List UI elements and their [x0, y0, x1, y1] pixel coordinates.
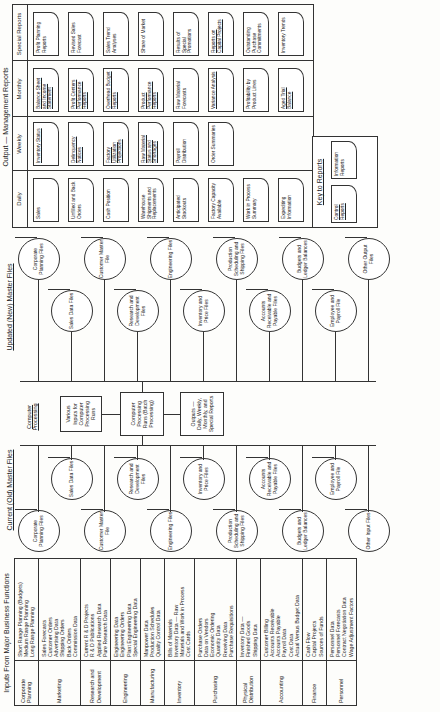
input-row: PurchasingPurchase OrdersData on Vendors… — [194, 559, 236, 705]
input-row: AccountingCustomer BillingAccounts Recei… — [260, 559, 302, 705]
report-label: Inventory Trends — [281, 17, 286, 53]
file-circle: Employee and Payroll File — [315, 458, 357, 500]
outputs-title: Output — Management Reports — [2, 6, 9, 228]
report-label: Cash Position — [106, 189, 111, 219]
input-data-item: Sources of Funds — [318, 562, 324, 657]
input-data-item: Quality Control Data — [155, 562, 161, 657]
input-data-item: Cost Cards — [185, 562, 191, 657]
input-row: Physical DistributionInventory Data —Fin… — [236, 559, 260, 705]
file-connector — [170, 280, 171, 382]
file-circle: Corporate Planning Files — [18, 510, 60, 552]
key-title: Key to Reports — [316, 137, 323, 227]
input-data-item: Wage Adjustment Factors — [348, 562, 354, 657]
file-connector — [104, 280, 105, 382]
input-function: Accounting — [261, 660, 302, 705]
input-row: FinanceCash FlowCapital ProjectsSources … — [302, 559, 326, 705]
input-function: Corporate Planning — [15, 660, 38, 705]
connector — [102, 414, 120, 415]
input-row: ManufacturingManpower DataProduction Sch… — [140, 559, 164, 705]
input-function: Personnel — [327, 660, 356, 705]
report-label: Share of Market — [141, 19, 146, 53]
information-report: Profit Planning Reports — [33, 12, 59, 56]
report-label: Raw Material Forecasts — [176, 81, 187, 109]
key-control-label: Control Reports — [334, 203, 345, 220]
inputs-title: Inputs From Major Business Functions — [3, 560, 10, 706]
file-connector — [38, 446, 39, 512]
information-report: Warehouse Shipments and Replacements — [138, 178, 164, 222]
report-label: Outstanding Purchase Commitments — [246, 23, 262, 53]
file-connector — [269, 446, 270, 460]
header-divider — [27, 5, 28, 227]
outputs-box: Outputs — Daily, Weekly, Monthly, and Sp… — [180, 392, 224, 436]
report-label: Anticipated Stockouts — [176, 195, 187, 219]
connector — [142, 382, 143, 392]
current-files-bus — [20, 445, 376, 446]
file-connector — [137, 332, 138, 382]
input-function: Purchasing — [195, 660, 236, 705]
report-label: Work in Process Summary — [246, 184, 257, 219]
input-data-list: Personnel DataPersonnel ForecastsContrac… — [327, 559, 356, 660]
file-circle: Engineering Files — [150, 238, 192, 280]
information-report: Results of Special Promotions — [173, 12, 199, 56]
file-connector — [236, 446, 237, 512]
report-label: Sales — [36, 207, 41, 219]
input-row: InventoryBills of MaterialsInventory Dat… — [164, 559, 194, 705]
file-connector — [335, 332, 336, 382]
input-data-item: Actual Versus Budget Data — [294, 562, 300, 657]
updated-files-title: Updated (New) Master Files — [6, 232, 13, 382]
input-function: Finance — [303, 660, 326, 705]
report-label: Payroll Distribution — [176, 139, 187, 163]
input-function: Engineering — [111, 660, 140, 705]
information-report: Unfilled and Back Orders — [68, 178, 94, 222]
report-label: Profit Centers Performance Reports — [71, 80, 87, 109]
input-data-item: Shipping Data — [252, 562, 258, 657]
input-data-list: Sales ForecastsCustomer OrdersAdvertisin… — [39, 559, 80, 660]
column-divider — [13, 170, 313, 171]
current-files-title: Current (Old) Master Files — [6, 420, 13, 560]
report-label: Aged Trial Balance — [281, 87, 292, 109]
report-label: Revised Sales Forecast — [71, 22, 82, 53]
report-column-label: Daily — [16, 171, 22, 227]
file-circle: Accounts Receivable and Payable Files — [249, 458, 291, 500]
input-data-list: Bills of MaterialsInventory Data — RawMa… — [165, 559, 194, 660]
input-data-item: Special Engineering Data — [132, 562, 138, 657]
file-connector — [137, 446, 138, 460]
information-report: Anticipated Stockouts — [173, 178, 199, 222]
report-column-label: Monthly — [16, 61, 22, 117]
file-circle: Budgets and Ledger Balances — [282, 510, 324, 552]
file-connector — [203, 446, 204, 460]
control-report: Variance Analysis — [208, 68, 234, 112]
file-circle: Production Scheduling and Shipping Files — [216, 238, 258, 280]
report-label: Delinquency Notices — [71, 137, 82, 163]
file-connector — [203, 332, 204, 382]
file-circle: Engineering Files — [150, 510, 192, 552]
input-data-list: Current R & D ProjectsR & D Publications… — [81, 559, 110, 660]
file-circle: Employee and Payroll File — [315, 290, 357, 332]
file-connector — [236, 280, 237, 382]
processing-title: Computer Processing — [26, 394, 38, 440]
report-label: Profit Planning Reports — [36, 22, 47, 53]
information-report: Raw Material Forecasts — [173, 68, 199, 112]
various-inputs-box: Various Inputs for Computer Processing R… — [60, 396, 102, 432]
input-function: Inventory — [165, 660, 194, 705]
file-circle: Customer Master File — [84, 238, 126, 280]
information-report: Share of Market — [138, 12, 164, 56]
information-report: Payroll Distribution — [173, 122, 199, 166]
input-function: Manufacturing — [141, 660, 164, 705]
information-report: Work in Process Summary — [243, 178, 269, 222]
file-connector — [368, 446, 369, 512]
information-report: Revised Sales Forecast — [68, 12, 94, 56]
input-row: Research and DevelopmentCurrent R & D Pr… — [80, 559, 110, 705]
control-report: Inventory Status — [33, 122, 59, 166]
control-report: Aged Trial Balance — [278, 68, 304, 112]
file-connector — [302, 280, 303, 382]
input-data-item: Purchase Requisitions — [228, 562, 234, 657]
column-divider — [13, 116, 313, 117]
input-row: MarketingSales ForecastsCustomer OrdersA… — [38, 559, 80, 705]
file-circle: Other Input Files — [348, 510, 390, 552]
report-label: Factory Utilization Projections — [106, 139, 122, 163]
control-report: Overhead Budget Reports — [103, 68, 129, 112]
input-data-item: Commission Data — [72, 562, 78, 657]
input-data-list: Inventory Data —Finished GoodsShipping D… — [237, 559, 260, 660]
input-data-list: Purchase OrdersData on VendorsEconomic O… — [195, 559, 236, 660]
